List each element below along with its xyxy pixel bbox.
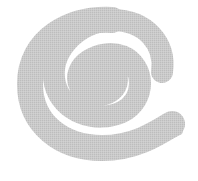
spiral-canvas: spiral: [0, 0, 198, 181]
spiral-icon: [0, 0, 198, 181]
